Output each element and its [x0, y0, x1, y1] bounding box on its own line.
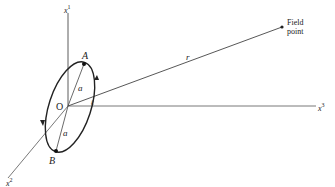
point-b-dot: [54, 149, 58, 153]
point-a-dot: [82, 62, 86, 66]
x3-axis-label: x3: [318, 102, 325, 113]
field-point-dot: [280, 25, 283, 28]
field-point-label-line2: point: [287, 27, 303, 36]
r-line: [68, 27, 282, 106]
radius-label-lower: a: [63, 129, 68, 138]
small-label-l: ℓ: [91, 100, 94, 107]
field-point-label: Field point: [287, 18, 303, 36]
field-point-label-line1: Field: [287, 18, 303, 27]
distance-r-label: r: [186, 53, 190, 62]
x1-axis-label: x1: [64, 4, 71, 15]
radius-label-upper: a: [78, 84, 83, 93]
origin-label: O: [56, 102, 63, 112]
x2-axis-label: x2: [6, 177, 13, 187]
arrow-left-icon: [40, 120, 45, 126]
x2-axis: [8, 106, 68, 178]
current-loop: [36, 56, 105, 158]
point-b-label: B: [49, 156, 55, 166]
point-a-label: A: [82, 51, 88, 61]
